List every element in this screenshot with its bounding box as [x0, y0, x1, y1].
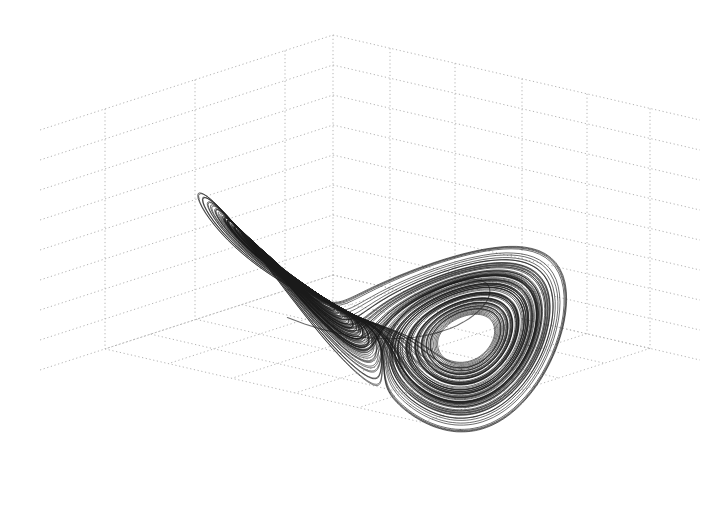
grid-left-wall-line — [40, 215, 333, 310]
grid-right-wall-line — [333, 35, 700, 120]
plot-area — [0, 0, 711, 532]
grid-left-wall-line — [40, 155, 333, 250]
trajectory-series — [198, 193, 567, 432]
trajectory-segment — [198, 193, 500, 386]
lorenz-attractor-figure — [0, 0, 711, 532]
grid-left-wall-line — [40, 65, 333, 160]
grid-left-wall-line — [40, 35, 333, 130]
grid-box — [40, 35, 700, 422]
grid-left-wall-line — [40, 185, 333, 280]
grid-left-wall-line — [40, 125, 333, 220]
grid-left-wall-line — [40, 95, 333, 190]
